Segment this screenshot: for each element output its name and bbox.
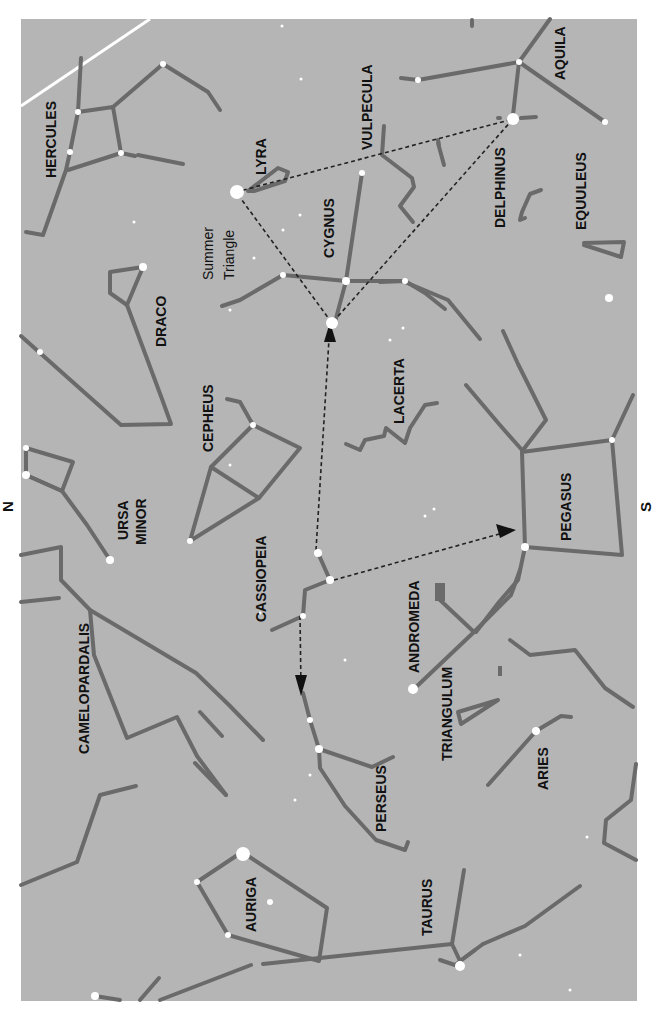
- label-vulpecula: VULPECULA: [359, 64, 375, 150]
- label-ursa-minor-2: MINOR: [133, 498, 149, 545]
- direction-south-label: S: [637, 502, 654, 512]
- label-delphinus: DELPHINUS: [492, 147, 508, 228]
- label-auriga: AURIGA: [243, 877, 259, 932]
- label-triangulum: TRIANGULUM: [439, 667, 455, 761]
- label-draco: DRACO: [153, 296, 169, 347]
- label-lacerta: LACERTA: [391, 358, 407, 424]
- label-taurus: TAURUS: [419, 879, 435, 936]
- label-summer-triangle-2: Triangle: [221, 230, 237, 280]
- label-hercules: HERCULES: [43, 101, 59, 178]
- label-cygnus: CYGNUS: [321, 198, 337, 258]
- label-pegasus: PEGASUS: [558, 473, 574, 541]
- label-aquila: AQUILA: [552, 26, 568, 80]
- label-camelopardalis: CAMELOPARDALIS: [76, 623, 92, 754]
- label-equuleus: EQUULEUS: [573, 152, 589, 230]
- label-andromeda: ANDROMEDA: [406, 580, 422, 673]
- label-aries: ARIES: [535, 747, 551, 790]
- label-cassiopeia: CASSIOPEIA: [253, 536, 269, 622]
- direction-north-label: N: [0, 501, 16, 512]
- label-cepheus: CEPHEUS: [200, 384, 216, 452]
- label-summer-triangle-1: Summer: [200, 227, 216, 280]
- label-perseus: PERSEUS: [373, 765, 389, 832]
- label-lyra: LYRA: [253, 138, 269, 175]
- sky-background: [21, 19, 637, 1001]
- label-ursa-minor-1: URSA: [115, 500, 131, 540]
- star-chart: HERCULES LYRA VULPECULA AQUILA DELPHINUS…: [0, 0, 657, 1009]
